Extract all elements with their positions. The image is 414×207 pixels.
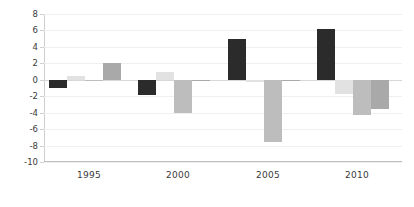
bar — [317, 29, 335, 80]
x-axis-tick-label: 2000 — [143, 170, 213, 180]
x-axis-tick-label: 2005 — [233, 170, 303, 180]
gridline — [44, 14, 402, 15]
plot-area — [44, 14, 402, 162]
gridline — [44, 30, 402, 31]
y-tick-mark — [40, 30, 44, 31]
bar — [371, 80, 389, 109]
bar — [138, 80, 156, 95]
gridline — [44, 63, 402, 64]
gridline — [44, 113, 402, 114]
y-axis-tick-label: 6 — [4, 26, 38, 34]
y-tick-mark — [40, 14, 44, 15]
y-axis-tick-label: -4 — [4, 109, 38, 117]
gridline — [44, 146, 402, 147]
bar — [282, 80, 300, 82]
bar — [192, 80, 210, 81]
gridline — [44, 96, 402, 97]
y-axis-tick-label: -2 — [4, 92, 38, 100]
gridline — [44, 129, 402, 130]
bar — [67, 76, 85, 79]
bar — [85, 80, 103, 82]
bar — [353, 80, 371, 115]
bar — [49, 80, 67, 88]
bar — [156, 72, 174, 80]
y-axis-tick-label: 8 — [4, 10, 38, 18]
y-tick-mark — [40, 47, 44, 48]
y-tick-mark — [40, 96, 44, 97]
bar — [174, 80, 192, 113]
y-tick-mark — [40, 113, 44, 114]
y-tick-mark — [40, 63, 44, 64]
y-tick-mark — [40, 129, 44, 130]
y-tick-mark — [40, 80, 44, 81]
bar — [103, 63, 121, 79]
y-axis-tick-label: -8 — [4, 142, 38, 150]
y-axis-tick-label: -6 — [4, 125, 38, 133]
bar-chart: 86420-2-4-6-8-101995200020052010 — [0, 0, 414, 207]
y-tick-mark — [40, 162, 44, 163]
y-axis-tick-label: 4 — [4, 43, 38, 51]
gridline — [44, 47, 402, 48]
x-axis-tick-label: 1995 — [54, 170, 124, 180]
y-axis-tick-label: -10 — [4, 158, 38, 166]
bar — [264, 80, 282, 142]
bar — [246, 80, 264, 82]
y-axis-tick-label: 2 — [4, 59, 38, 67]
bar — [228, 39, 246, 80]
y-tick-mark — [40, 146, 44, 147]
y-axis-tick-label: 0 — [4, 76, 38, 84]
bar — [335, 80, 353, 94]
gridline — [44, 162, 402, 163]
x-axis-tick-label: 2010 — [322, 170, 392, 180]
